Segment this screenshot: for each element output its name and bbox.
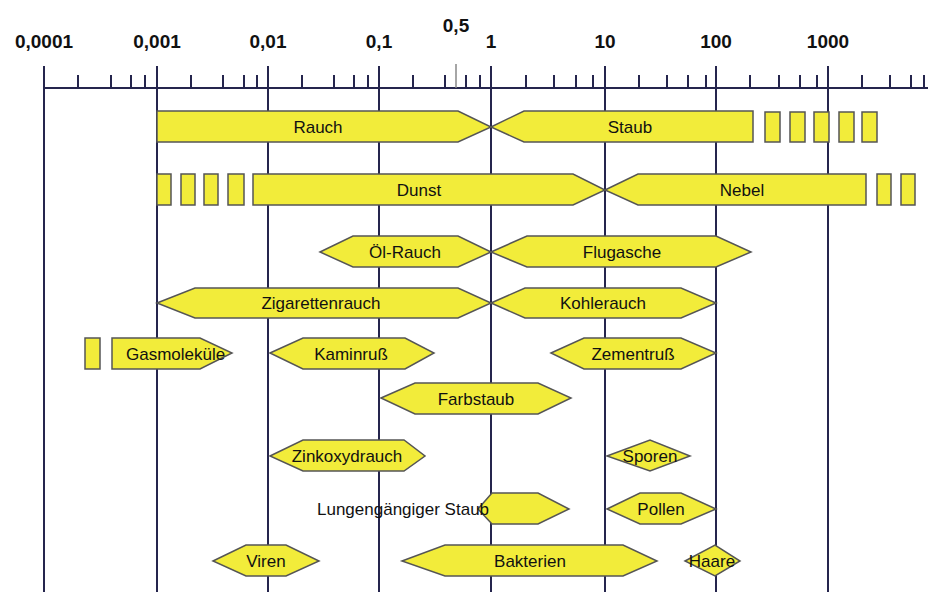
label-flugasche: Flugasche	[583, 243, 661, 262]
label-rauch: Rauch	[293, 118, 342, 137]
label-kaminruss: Kaminruß	[314, 345, 388, 364]
label-staub: Staub	[608, 118, 652, 137]
tick-label-10: 10	[594, 31, 615, 52]
label-zigarettenrauch: Zigarettenrauch	[261, 294, 380, 313]
dunst-dash-3	[204, 174, 218, 205]
label-haare: Haare	[689, 552, 735, 571]
label-zinkoxydrauch: Zinkoxydrauch	[292, 447, 403, 466]
tick-label-1000: 1000	[807, 31, 849, 52]
label-oel-rauch: Öl-Rauch	[369, 243, 441, 262]
label-nebel: Nebel	[720, 181, 764, 200]
staub-dash-5	[862, 112, 877, 142]
label-gasmolekuele: Gasmoleküle	[126, 345, 225, 364]
label-viren: Viren	[246, 552, 285, 571]
dunst-dash-1	[157, 174, 171, 205]
staub-dash-4	[839, 112, 854, 142]
minor-ticks	[78, 75, 924, 88]
particle-size-diagram: 0,0001 0,001 0,01 0,1 0,5 1 10 100 1000	[0, 0, 944, 610]
staub-dash-3	[814, 112, 829, 142]
label-dunst: Dunst	[397, 181, 442, 200]
nebel-dash-2	[901, 174, 915, 205]
dunst-dash-2	[181, 174, 195, 205]
tick-label-0-1: 0,1	[366, 31, 393, 52]
axis-labels: 0,0001 0,001 0,01 0,1 0,5 1 10 100 1000	[15, 15, 849, 52]
tick-label-0-01: 0,01	[250, 31, 287, 52]
label-lungengaengiger-staub: Lungengängiger Staub	[317, 500, 489, 519]
gasmolekuele-dash	[85, 338, 100, 369]
label-pollen: Pollen	[637, 500, 684, 519]
bar-lungengaengiger-staub	[478, 493, 569, 524]
tick-label-100: 100	[700, 31, 732, 52]
nebel-dash-1	[877, 174, 891, 205]
label-sporen: Sporen	[623, 447, 678, 466]
tick-label-0-0001: 0,0001	[15, 31, 74, 52]
bars	[85, 111, 915, 576]
tick-label-1: 1	[486, 31, 497, 52]
dunst-dash-4	[228, 174, 244, 205]
label-farbstaub: Farbstaub	[438, 390, 515, 409]
tick-label-0-001: 0,001	[133, 31, 181, 52]
staub-dash-1	[765, 112, 780, 142]
staub-dash-2	[790, 112, 805, 142]
tick-label-0-5: 0,5	[443, 15, 470, 36]
label-zementruss: Zementruß	[591, 345, 674, 364]
label-bakterien: Bakterien	[494, 552, 566, 571]
label-kohlerauch: Kohlerauch	[560, 294, 646, 313]
